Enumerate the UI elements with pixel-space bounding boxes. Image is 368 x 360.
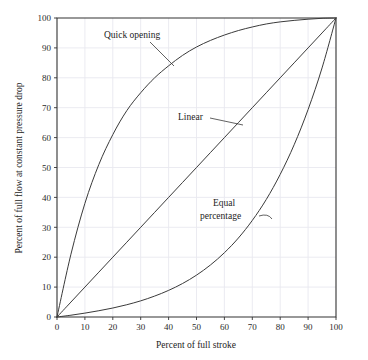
- chart-page: Quick openingLinearEqualpercentage 01020…: [0, 0, 368, 360]
- x-tick-label: 40: [164, 322, 174, 332]
- y-tick-label: 50: [42, 163, 52, 173]
- y-tick-label: 10: [42, 282, 52, 292]
- y-axis-title: Percent of full flow at constant pressur…: [14, 82, 24, 253]
- y-tick-label: 90: [42, 43, 52, 53]
- x-tick-label: 100: [329, 322, 343, 332]
- x-axis-title: Percent of full stroke: [156, 340, 236, 350]
- x-tick-label: 80: [276, 322, 286, 332]
- quick-opening-annotation: Quick opening: [104, 30, 160, 40]
- x-tick-label: 90: [304, 322, 314, 332]
- x-tick-label: 10: [80, 322, 90, 332]
- x-tick-label: 30: [136, 322, 146, 332]
- valve-characteristic-chart: Quick openingLinearEqualpercentage 01020…: [0, 0, 368, 360]
- y-tick-label: 100: [38, 13, 52, 23]
- y-tick-label: 20: [42, 252, 52, 262]
- equal-percentage-annotation-line1: Equal: [213, 198, 236, 208]
- x-tick-label: 70: [248, 322, 258, 332]
- y-tick-label: 40: [42, 193, 52, 203]
- y-tick-label: 70: [42, 103, 52, 113]
- y-tick-label: 60: [42, 133, 52, 143]
- equal-percentage-annotation-line2: percentage: [200, 211, 241, 221]
- x-tick-label: 0: [55, 322, 60, 332]
- y-tick-label: 80: [42, 73, 52, 83]
- linear-annotation: Linear: [178, 112, 204, 122]
- y-tick-label: 30: [42, 223, 52, 233]
- x-tick-label: 60: [220, 322, 230, 332]
- y-tick-label: 0: [47, 312, 52, 322]
- x-tick-label: 20: [108, 322, 118, 332]
- x-tick-label: 50: [192, 322, 202, 332]
